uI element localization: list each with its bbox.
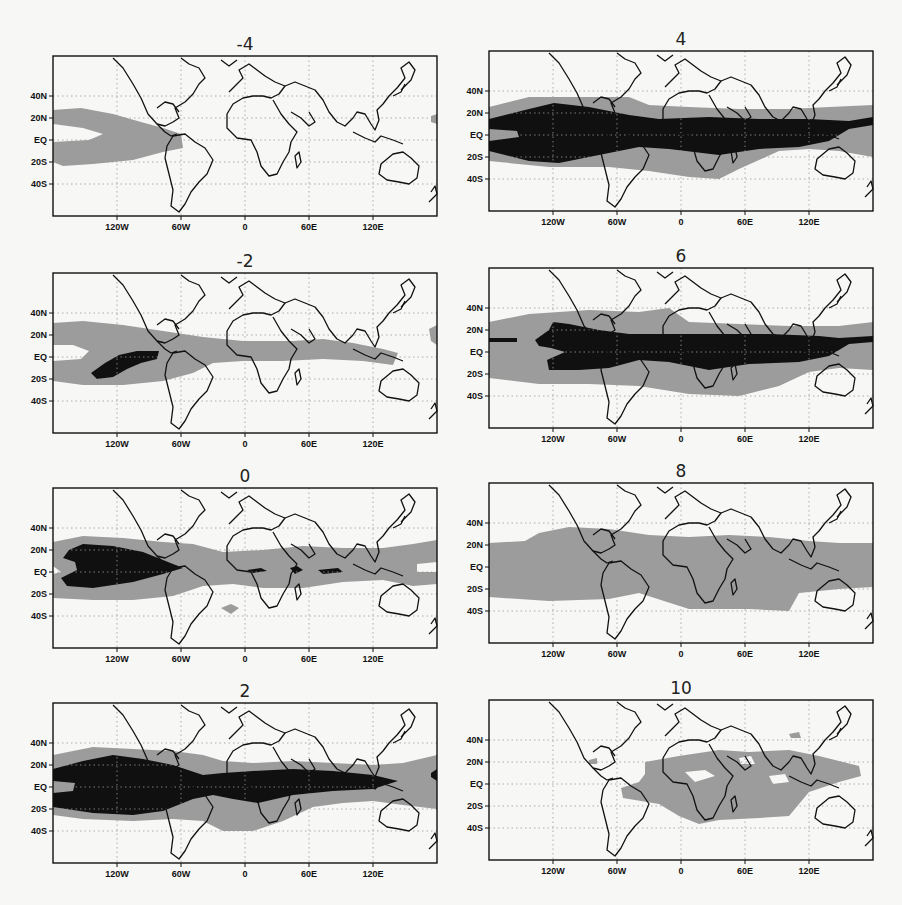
svg-text:20N: 20N [466, 757, 483, 767]
svg-text:40N: 40N [466, 735, 483, 745]
svg-text:20S: 20S [467, 801, 483, 811]
svg-text:EQ: EQ [470, 130, 483, 140]
svg-text:60E: 60E [301, 439, 317, 449]
y-axis-ticks: 40N 20N EQ 20S 40S [466, 86, 483, 184]
svg-text:EQ: EQ [470, 779, 483, 789]
svg-text:40S: 40S [467, 606, 483, 616]
y-axis-ticks: 40N 20N EQ 20S 40S [30, 523, 47, 621]
panel-lag-minus2: -2 40N 20N EQ 20S 40S 120W 60W 0 60E 120… [30, 251, 437, 449]
svg-text:0: 0 [678, 649, 683, 659]
svg-text:20S: 20S [31, 374, 47, 384]
svg-text:EQ: EQ [34, 135, 47, 145]
svg-text:60E: 60E [737, 434, 753, 444]
svg-text:20N: 20N [466, 540, 483, 550]
panel-lag-2: 2 40N 20N EQ 20S 40S 120W 60W 0 60E 120E [30, 681, 437, 879]
svg-text:120E: 120E [362, 654, 383, 664]
svg-text:40S: 40S [31, 611, 47, 621]
panel-lag-0: 0 40N 20N EQ 20S 40S 120W 60W 0 60E 120E [30, 466, 437, 664]
svg-text:60W: 60W [172, 869, 191, 879]
panel-lag-10: 10 40N 20N EQ 20S 40S 120W 60W 0 60E 120… [466, 678, 873, 876]
svg-text:20N: 20N [30, 545, 47, 555]
x-axis-ticks: 120W 60W 0 60E 120E [105, 869, 383, 879]
svg-text:60E: 60E [737, 866, 753, 876]
svg-text:60W: 60W [172, 439, 191, 449]
svg-text:120E: 120E [798, 649, 819, 659]
x-axis-ticks: 120W 60W 0 60E 120E [105, 654, 383, 664]
svg-text:60E: 60E [737, 649, 753, 659]
svg-text:20S: 20S [467, 584, 483, 594]
svg-text:60W: 60W [608, 649, 627, 659]
svg-text:120W: 120W [105, 654, 129, 664]
svg-text:40S: 40S [467, 391, 483, 401]
svg-text:60W: 60W [608, 217, 627, 227]
svg-text:0: 0 [242, 439, 247, 449]
panel-lag-minus4: -4 40N 20N EQ 20S 40S 120W 60W 0 60E 120… [30, 34, 437, 232]
y-axis-ticks: 40N 20N EQ 20S 40S [466, 735, 483, 833]
x-axis-ticks: 120W 60W 0 60E 120E [541, 866, 819, 876]
svg-text:20N: 20N [30, 113, 47, 123]
svg-text:120E: 120E [362, 869, 383, 879]
svg-text:120W: 120W [541, 434, 565, 444]
panel-title: 2 [240, 681, 251, 701]
svg-text:120W: 120W [541, 217, 565, 227]
svg-text:120W: 120W [541, 649, 565, 659]
svg-text:20N: 20N [30, 760, 47, 770]
x-axis-ticks: 120W 60W 0 60E 120E [541, 217, 819, 227]
svg-text:0: 0 [678, 217, 683, 227]
svg-text:20N: 20N [30, 330, 47, 340]
y-axis-ticks: 40N 20N EQ 20S 40S [466, 303, 483, 401]
svg-text:60W: 60W [172, 222, 191, 232]
svg-text:40S: 40S [467, 823, 483, 833]
panel-title: 6 [676, 246, 687, 266]
svg-text:40S: 40S [31, 179, 47, 189]
svg-text:0: 0 [242, 222, 247, 232]
svg-text:40N: 40N [30, 91, 47, 101]
x-axis-ticks: 120W 60W 0 60E 120E [105, 222, 383, 232]
svg-text:40N: 40N [30, 738, 47, 748]
svg-text:40S: 40S [31, 396, 47, 406]
svg-text:40N: 40N [30, 308, 47, 318]
panel-title: 0 [240, 466, 251, 486]
svg-text:EQ: EQ [34, 352, 47, 362]
svg-text:20S: 20S [31, 804, 47, 814]
svg-text:120E: 120E [798, 434, 819, 444]
svg-text:20N: 20N [466, 325, 483, 335]
svg-text:20S: 20S [467, 369, 483, 379]
y-axis-ticks: 40N 20N EQ 20S 40S [466, 518, 483, 616]
svg-text:60W: 60W [608, 434, 627, 444]
svg-text:40N: 40N [30, 523, 47, 533]
svg-text:60E: 60E [301, 869, 317, 879]
svg-text:0: 0 [242, 654, 247, 664]
svg-text:120E: 120E [798, 866, 819, 876]
svg-text:0: 0 [678, 866, 683, 876]
svg-text:120E: 120E [798, 217, 819, 227]
x-axis-ticks: 120W 60W 0 60E 120E [105, 439, 383, 449]
svg-text:60E: 60E [301, 222, 317, 232]
figure: -4 40N 20N EQ 20S 40S 120W 60W 0 60E 120… [0, 0, 902, 905]
svg-text:EQ: EQ [34, 567, 47, 577]
svg-text:120W: 120W [105, 222, 129, 232]
svg-text:0: 0 [242, 869, 247, 879]
panel-lag-4: 4 40N 20N EQ 20S 40S 120W 60W 0 60E 120E [466, 29, 873, 227]
svg-text:20N: 20N [466, 108, 483, 118]
svg-text:60W: 60W [172, 654, 191, 664]
svg-text:40N: 40N [466, 303, 483, 313]
y-axis-ticks: 40N 20N EQ 20S 40S [30, 738, 47, 836]
panel-lag-8: 8 40N 20N EQ 20S 40S 120W 60W 0 60E 120E [466, 461, 873, 659]
panel-title: -4 [237, 34, 254, 54]
svg-text:EQ: EQ [34, 782, 47, 792]
svg-text:120E: 120E [362, 439, 383, 449]
panel-title: 10 [670, 678, 692, 698]
panel-title: 4 [676, 29, 687, 49]
svg-text:120W: 120W [105, 869, 129, 879]
svg-text:120E: 120E [362, 222, 383, 232]
svg-text:20S: 20S [31, 589, 47, 599]
x-axis-ticks: 120W 60W 0 60E 120E [541, 434, 819, 444]
svg-text:0: 0 [678, 434, 683, 444]
y-axis-ticks: 40N 20N EQ 20S 40S [30, 308, 47, 406]
panel-title: -2 [237, 251, 254, 271]
panel-title: 8 [676, 461, 687, 481]
svg-text:EQ: EQ [470, 347, 483, 357]
svg-text:60W: 60W [608, 866, 627, 876]
panel-lag-6: 6 40N 20N EQ 20S 40S 120W 60W 0 60E 120E [466, 246, 873, 444]
